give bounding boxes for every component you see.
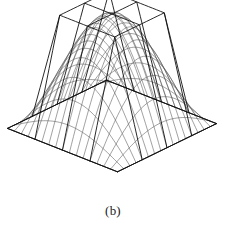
wireframe-plot-svg: [0, 0, 226, 205]
frustum-interpolant-mesh: [7, 0, 216, 172]
figure-container: (b): [0, 0, 226, 233]
wireframe-plot-area: [0, 0, 226, 205]
figure-caption: (b): [0, 203, 226, 219]
